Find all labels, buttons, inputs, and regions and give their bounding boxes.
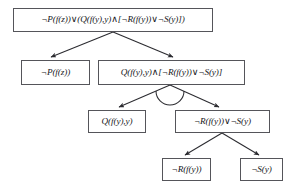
proof-tree-diagram: ¬P(f(z))∨(Q(f(y),y)∧[¬R(f(y))∨¬S(y)]) ¬P… <box>0 0 296 191</box>
tree-node-root: ¬P(f(z))∨(Q(f(y),y)∧[¬R(f(y))∨¬S(y)]) <box>13 8 213 32</box>
tree-node-conjunction: Q(f(y),y)∧[¬R(f(y))∨¬S(y)] <box>98 60 245 85</box>
tree-node-not-s: ¬S(y) <box>240 158 283 181</box>
tree-node-root-label: ¬P(f(z))∨(Q(f(y),y)∧[¬R(f(y))∨¬S(y)]) <box>41 15 184 24</box>
tree-node-conjunction-label: Q(f(y),y)∧[¬R(f(y))∨¬S(y)] <box>121 68 223 77</box>
tree-node-not-p-label: ¬P(f(z)) <box>41 68 70 77</box>
edge-disj-to-ns <box>222 133 259 155</box>
edge-root-to-np <box>51 32 113 57</box>
edge-conj-to-disj <box>170 85 219 107</box>
and-split-arc-icon <box>156 91 184 105</box>
tree-node-disjunction-label: ¬R(f(y))∨¬S(y) <box>194 117 251 126</box>
tree-node-q-label: Q(f(y),y) <box>102 117 133 126</box>
tree-node-q: Q(f(y),y) <box>88 110 146 133</box>
tree-node-not-s-label: ¬S(y) <box>251 165 272 174</box>
edge-disj-to-nr <box>185 133 222 155</box>
tree-node-disjunction: ¬R(f(y))∨¬S(y) <box>175 110 270 133</box>
tree-node-not-p: ¬P(f(z)) <box>21 60 90 85</box>
edge-root-to-conj <box>113 32 173 57</box>
edge-conj-to-q <box>119 85 170 107</box>
tree-node-not-r: ¬R(f(y)) <box>162 158 211 181</box>
tree-node-not-r-label: ¬R(f(y)) <box>172 165 202 174</box>
